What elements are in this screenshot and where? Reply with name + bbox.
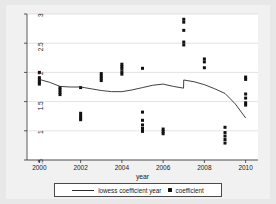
data-point-marker — [141, 123, 144, 126]
data-point-marker — [203, 66, 206, 69]
data-point-marker — [224, 131, 227, 134]
data-point-marker — [244, 93, 247, 96]
data-point-marker — [141, 111, 144, 114]
x-axis-tick-label: 2004 — [110, 165, 134, 172]
data-point-marker — [224, 135, 227, 138]
data-point-marker — [59, 93, 62, 96]
data-point-marker — [141, 67, 144, 70]
x-axis-tick-label: 2006 — [151, 165, 175, 172]
x-axis-title: year — [27, 173, 258, 180]
x-axis-tick-label: 2002 — [69, 165, 93, 172]
data-point-marker — [182, 41, 185, 44]
legend-label-lowess: lowess coefficient year — [98, 187, 161, 194]
data-point-marker — [182, 29, 185, 32]
y-axis-tick-label: 1.5 — [38, 101, 45, 121]
data-point-marker — [244, 78, 247, 81]
legend-entry-coefficient: coefficient — [168, 187, 203, 194]
data-point-marker — [141, 127, 144, 130]
x-axis-tick-label: 2008 — [192, 165, 216, 172]
y-axis-tick-label: 2.5 — [38, 42, 45, 62]
data-point-marker — [224, 142, 227, 145]
data-point-marker — [120, 73, 123, 76]
data-point-marker — [224, 126, 227, 129]
data-point-marker — [182, 18, 185, 21]
x-axis-tick-label: 2000 — [27, 165, 51, 172]
legend-entry-lowess: lowess coefficient year — [72, 187, 161, 194]
legend-label-coefficient: coefficient — [176, 187, 204, 194]
data-point-marker — [244, 97, 247, 100]
data-point-marker — [182, 43, 185, 46]
y-axis-tick-label: 1 — [38, 130, 45, 150]
data-point-marker — [244, 104, 247, 107]
data-point-marker — [79, 118, 82, 121]
y-axis-tick-label: 3 — [38, 13, 45, 33]
data-point-marker — [224, 138, 227, 141]
data-point-marker — [141, 119, 144, 122]
legend-square-marker-icon — [168, 188, 171, 191]
legend-line-icon — [72, 190, 94, 191]
data-point-marker — [141, 130, 144, 133]
data-point-marker — [203, 60, 206, 63]
data-point-marker — [162, 132, 165, 135]
chart-figure: .511.522.53 200020022004200620082010 yea… — [0, 0, 276, 204]
chart-legend: lowess coefficient year coefficient — [54, 183, 222, 197]
x-axis-tick-label: 2010 — [234, 165, 258, 172]
data-point-marker — [203, 57, 206, 60]
data-point-marker — [100, 79, 103, 82]
data-point-marker — [182, 21, 185, 24]
y-axis-tick-label: 2 — [38, 72, 45, 92]
data-point-marker — [120, 67, 123, 70]
